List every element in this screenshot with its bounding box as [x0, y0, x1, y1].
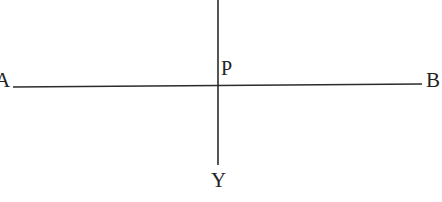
- point-label-a: A: [0, 70, 10, 91]
- point-label-y: Y: [211, 170, 226, 191]
- point-label-p: P: [221, 58, 232, 78]
- point-label-b: B: [426, 70, 440, 91]
- geometry-figure-canvas: A B P Y: [0, 0, 442, 202]
